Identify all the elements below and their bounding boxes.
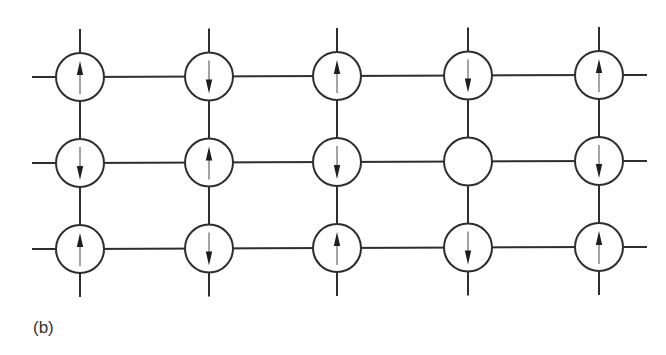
spin-site-down <box>185 225 233 273</box>
spin-lattice-diagram <box>0 0 666 355</box>
spin-site-down <box>56 139 104 187</box>
spin-site-up <box>575 51 623 99</box>
spin-site-up <box>575 223 623 271</box>
vacancy-site <box>444 138 492 186</box>
spin-site-down <box>575 137 623 185</box>
spin-site-down <box>444 224 492 272</box>
spin-site-up <box>185 139 233 187</box>
spin-site-down <box>185 53 233 101</box>
panel-label: (b) <box>33 318 54 338</box>
site-circle <box>444 138 492 186</box>
spin-site-down <box>444 52 492 100</box>
spin-site-down <box>313 138 361 186</box>
spin-site-up <box>313 52 361 100</box>
spin-site-up <box>56 225 104 273</box>
spin-site-up <box>56 53 104 101</box>
spin-site-up <box>313 224 361 272</box>
